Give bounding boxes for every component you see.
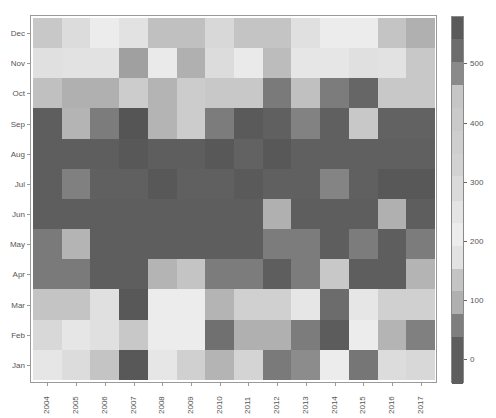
- y-tick-mark: [27, 214, 30, 215]
- heatmap-cell: [406, 139, 435, 169]
- heatmap-cell: [148, 229, 177, 259]
- heatmap-cell: [148, 139, 177, 169]
- heatmap-cell: [406, 259, 435, 289]
- x-tick-mark: [134, 383, 135, 386]
- heatmap-cell: [378, 18, 407, 48]
- heatmap-cell: [291, 139, 320, 169]
- heatmap-cell: [263, 229, 292, 259]
- heatmap-cell: [62, 320, 91, 350]
- heatmap-cell: [119, 78, 148, 108]
- colorbar-tick-mark: [464, 241, 467, 242]
- y-tick-label: Aug: [11, 149, 25, 158]
- heatmap-cell: [349, 48, 378, 78]
- y-tick-label: Jan: [12, 360, 25, 369]
- x-tick-label: 2014: [330, 396, 339, 414]
- heatmap-cell: [234, 169, 263, 199]
- x-tick-label: 2013: [301, 396, 310, 414]
- heatmap-cell: [119, 320, 148, 350]
- heatmap-cell: [62, 139, 91, 169]
- heatmap-cell: [234, 108, 263, 138]
- colorbar-band: [452, 223, 463, 246]
- heatmap-cell: [234, 289, 263, 319]
- heatmap-grid: [33, 18, 435, 380]
- heatmap-cell: [177, 108, 206, 138]
- heatmap-cell: [33, 350, 62, 380]
- heatmap-cell: [349, 199, 378, 229]
- heatmap-cell: [177, 199, 206, 229]
- heatmap-cell: [406, 108, 435, 138]
- x-tick-mark: [162, 383, 163, 386]
- heatmap-cell: [320, 289, 349, 319]
- x-tick-label: 2012: [272, 396, 281, 414]
- heatmap-cell: [349, 320, 378, 350]
- heatmap-cell: [349, 229, 378, 259]
- y-tick-mark: [27, 93, 30, 94]
- y-tick-mark: [27, 184, 30, 185]
- y-tick-mark: [27, 274, 30, 275]
- heatmap-cell: [378, 139, 407, 169]
- x-tick-mark: [105, 383, 106, 386]
- colorbar-tick-label: 100: [470, 296, 483, 305]
- heatmap-cell: [177, 169, 206, 199]
- y-tick-label: Jun: [12, 210, 25, 219]
- heatmap-cell: [148, 18, 177, 48]
- x-tick-label: 2016: [387, 396, 396, 414]
- heatmap-cell: [90, 169, 119, 199]
- colorbar-tick-mark: [464, 300, 467, 301]
- x-tick-label: 2008: [157, 396, 166, 414]
- heatmap-cell: [263, 199, 292, 229]
- heatmap-cell: [62, 108, 91, 138]
- heatmap-cell: [378, 289, 407, 319]
- heatmap-cell: [90, 350, 119, 380]
- heatmap-cell: [320, 199, 349, 229]
- heatmap-cell: [177, 18, 206, 48]
- heatmap-cell: [177, 259, 206, 289]
- heatmap-cell: [320, 78, 349, 108]
- heatmap-cell: [33, 169, 62, 199]
- heatmap-cell: [205, 18, 234, 48]
- heatmap-cell: [177, 48, 206, 78]
- x-tick-mark: [76, 383, 77, 386]
- heatmap-cell: [205, 108, 234, 138]
- heatmap-cell: [205, 289, 234, 319]
- colorbar-tick-label: 400: [470, 118, 483, 127]
- heatmap-cell: [177, 289, 206, 319]
- heatmap-cell: [406, 18, 435, 48]
- heatmap-cell: [378, 259, 407, 289]
- colorbar-band: [452, 201, 463, 223]
- heatmap-cell: [33, 139, 62, 169]
- y-tick-mark: [27, 154, 30, 155]
- heatmap-cell: [62, 199, 91, 229]
- heatmap-cell: [378, 108, 407, 138]
- heatmap-cell: [62, 78, 91, 108]
- x-tick-label: 2009: [186, 396, 195, 414]
- y-tick-mark: [27, 365, 30, 366]
- heatmap-cell: [291, 78, 320, 108]
- heatmap-cell: [263, 18, 292, 48]
- heatmap-cell: [320, 48, 349, 78]
- x-tick-mark: [421, 383, 422, 386]
- heatmap-cell: [119, 199, 148, 229]
- heatmap-cell: [291, 229, 320, 259]
- heatmap-cell: [406, 229, 435, 259]
- x-tick-label: 2010: [215, 396, 224, 414]
- x-tick-mark: [306, 383, 307, 386]
- colorbar-tick-mark: [464, 182, 467, 183]
- heatmap-cell: [406, 289, 435, 319]
- heatmap-cell: [119, 350, 148, 380]
- y-tick-mark: [27, 335, 30, 336]
- heatmap-cell: [148, 108, 177, 138]
- heatmap-cell: [205, 139, 234, 169]
- heatmap-cell: [320, 169, 349, 199]
- colorbar-tick-label: 200: [470, 236, 483, 245]
- colorbar-band: [452, 337, 463, 384]
- heatmap-cell: [90, 199, 119, 229]
- x-tick-mark: [392, 383, 393, 386]
- heatmap-cell: [148, 78, 177, 108]
- heatmap-cell: [119, 139, 148, 169]
- heatmap-cell: [119, 18, 148, 48]
- heatmap-cell: [291, 169, 320, 199]
- y-tick-mark: [27, 305, 30, 306]
- heatmap-cell: [234, 78, 263, 108]
- heatmap-cell: [62, 289, 91, 319]
